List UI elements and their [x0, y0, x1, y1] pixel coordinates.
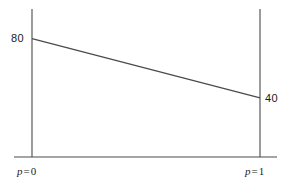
- x-tick-p1-value: 1: [259, 165, 265, 177]
- x-tick-p0-equals: =: [23, 165, 31, 177]
- chart-canvas: [0, 0, 293, 189]
- payoff-line-chart: 80 40 p=0 p=1: [0, 0, 293, 189]
- x-tick-p1-equals: =: [251, 165, 259, 177]
- x-tick-p0-value: 0: [31, 165, 37, 177]
- value-label-right: 40: [265, 93, 278, 104]
- x-tick-p0-variable: p: [17, 165, 23, 177]
- x-tick-p1-variable: p: [245, 165, 251, 177]
- value-label-left: 80: [11, 33, 24, 44]
- payoff-line-series: [32, 39, 260, 98]
- x-tick-label-p1: p=1: [245, 166, 264, 177]
- x-tick-label-p0: p=0: [17, 166, 36, 177]
